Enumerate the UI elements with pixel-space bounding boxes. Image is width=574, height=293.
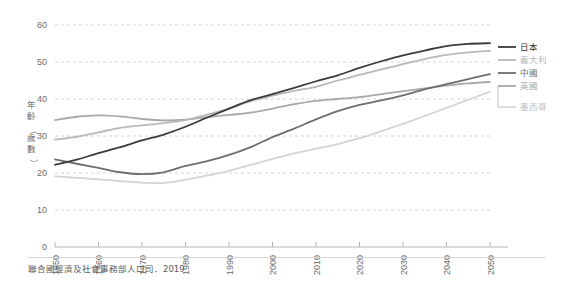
y-axis-tick-label: 50 [37,57,47,67]
y-axis-tick-label: 20 [37,168,47,178]
x-axis-tick-label: 2020 [355,255,365,275]
x-axis-tick-label: 2050 [486,255,496,275]
x-axis-tick-label: 2000 [268,255,278,275]
legend-label-3[interactable]: 英國 [520,81,538,91]
y-axis-tick-label: 0 [42,242,47,252]
age-median-line-chart: 0102030405060195019601970198019902000201… [0,0,574,293]
series-line-1 [55,51,490,140]
x-axis-tick-label: 1990 [225,255,235,275]
source-note: 聯合國經濟及社會事務部人口司．2019 [28,262,185,274]
y-axis-title-char: 年 [27,100,36,110]
series-line-0 [55,43,490,165]
y-axis-title-char: 數 [27,144,36,154]
chart-canvas: 0102030405060195019601970198019902000201… [0,0,574,293]
legend-label-1[interactable]: 義大利 [520,55,547,65]
legend-label-2[interactable]: 中國 [520,68,538,78]
y-axis-title: 年齡（歲數） [27,100,40,168]
x-axis-tick-label: 2030 [399,255,409,275]
y-axis-title-char: ） [29,159,39,168]
x-axis-tick-label: 2010 [312,255,322,275]
y-axis-tick-label: 10 [37,205,47,215]
legend-label-0[interactable]: 日本 [520,42,538,52]
y-axis-title-char: 歲 [27,133,36,143]
footer-divider [28,257,546,258]
y-axis-title-char: 齡 [27,111,36,121]
y-axis-tick-label: 60 [37,20,47,30]
legend-label-4[interactable]: 墨西哥 [520,102,547,112]
y-axis-tick-label: 40 [37,94,47,104]
series-line-3 [55,82,490,121]
legend-swatch-4 [498,86,516,107]
x-axis-tick-label: 2040 [442,255,452,275]
